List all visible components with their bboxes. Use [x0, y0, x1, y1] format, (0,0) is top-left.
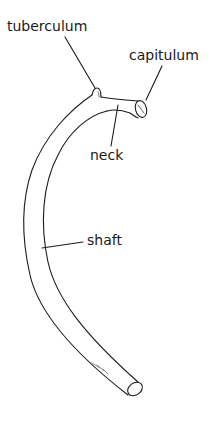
leader-shaft	[42, 242, 83, 248]
rib-drawing	[0, 0, 223, 425]
leader-tuberculum	[65, 37, 95, 88]
neck-upper-edge	[101, 97, 138, 101]
label-tuberculum: tuberculum	[7, 19, 87, 33]
tuberculum-shape	[92, 88, 101, 97]
neck-lower-edge	[107, 110, 138, 118]
label-shaft: shaft	[87, 233, 122, 247]
leader-capitulum	[146, 66, 162, 100]
label-neck: neck	[90, 148, 123, 162]
leader-neck	[111, 105, 118, 146]
rib-tip	[125, 379, 145, 398]
label-capitulum: capitulum	[129, 48, 199, 62]
